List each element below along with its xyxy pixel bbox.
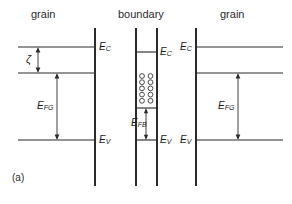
trap-state-circle bbox=[140, 92, 145, 97]
label-ec-left-grain: EC bbox=[99, 41, 111, 52]
trap-state-circle bbox=[148, 92, 153, 97]
trap-state-circle bbox=[148, 74, 153, 79]
trap-state-circle bbox=[140, 98, 145, 103]
label-ev-left-grain: EV bbox=[99, 134, 110, 145]
label-ec-right-grain-base: E bbox=[180, 41, 187, 52]
label-ev-right-grain-base: E bbox=[180, 134, 187, 145]
label-efg-left-grain-base: E bbox=[37, 100, 44, 111]
label-efg-left-grain: EFG bbox=[37, 100, 53, 111]
label-efg-right-grain-base: E bbox=[218, 100, 225, 111]
efg-arrow-left-grain bbox=[55, 73, 60, 140]
label-ev-left-grain-base: E bbox=[99, 134, 106, 145]
trap-state-circle bbox=[140, 86, 145, 91]
label-ec-left-grain-base: E bbox=[99, 41, 106, 52]
label-ec-boundary: EC bbox=[160, 46, 172, 57]
zeta-arrow bbox=[36, 47, 41, 73]
label-efg-right-grain: EFG bbox=[218, 100, 234, 111]
label-ev-boundary-base: E bbox=[160, 134, 167, 145]
label-ec-boundary-base: E bbox=[160, 46, 167, 57]
label-ec-right-grain: EC bbox=[180, 41, 192, 52]
trap-state-circle bbox=[148, 86, 153, 91]
label-ec-right-grain-sub: C bbox=[187, 45, 192, 52]
label-zeta: ζ bbox=[26, 53, 31, 65]
label-efg-right-grain-sub: FG bbox=[225, 104, 235, 111]
efg-arrow-right-grain bbox=[236, 73, 241, 140]
label-efb-boundary-base: E bbox=[131, 117, 138, 128]
header-label-boundary: boundary bbox=[118, 8, 164, 20]
label-ev-boundary: EV bbox=[160, 134, 171, 145]
label-ec-boundary-sub: C bbox=[167, 50, 172, 57]
figure-canvas: grain boundary grain EC EC EC EV EV EV E… bbox=[0, 0, 292, 204]
header-label-grain-right: grain bbox=[220, 8, 244, 20]
trap-state-circle bbox=[148, 98, 153, 103]
label-ec-left-grain-sub: C bbox=[106, 45, 111, 52]
header-label-grain-left: grain bbox=[31, 8, 55, 20]
label-ev-left-grain-sub: V bbox=[106, 138, 111, 145]
trap-state-circle bbox=[140, 80, 145, 85]
trap-state-circle bbox=[148, 80, 153, 85]
trap-state-circle bbox=[140, 74, 145, 79]
panel-label: (a) bbox=[12, 172, 24, 183]
label-efg-left-grain-sub: FG bbox=[44, 104, 54, 111]
trap-states-group bbox=[140, 74, 153, 104]
label-ev-right-grain: EV bbox=[180, 134, 191, 145]
label-ev-right-grain-sub: V bbox=[187, 138, 192, 145]
label-efb-boundary: EFB bbox=[131, 117, 147, 128]
label-ev-boundary-sub: V bbox=[167, 138, 172, 145]
label-efb-boundary-sub: FB bbox=[138, 121, 147, 128]
